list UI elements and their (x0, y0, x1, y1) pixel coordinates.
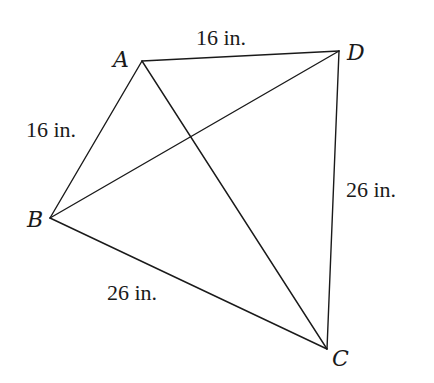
diagonal-bd (50, 51, 339, 218)
vertex-label-d: D (346, 40, 365, 65)
length-label-ad: 16 in. (196, 25, 246, 50)
vertex-labels: ABCD (26, 40, 365, 371)
vertex-label-a: A (111, 47, 129, 72)
side-ad (142, 51, 339, 61)
length-label-ab: 16 in. (26, 117, 76, 142)
length-label-dc: 26 in. (346, 177, 396, 202)
length-label-bc: 26 in. (107, 280, 157, 305)
segments (50, 51, 339, 349)
kite-diagram: ABCD 16 in.16 in.26 in.26 in. (0, 0, 434, 383)
vertex-label-c: C (332, 346, 349, 371)
vertex-label-b: B (26, 207, 43, 232)
side-dc (327, 51, 339, 349)
kite-figure: ABCD 16 in.16 in.26 in.26 in. (0, 0, 434, 383)
